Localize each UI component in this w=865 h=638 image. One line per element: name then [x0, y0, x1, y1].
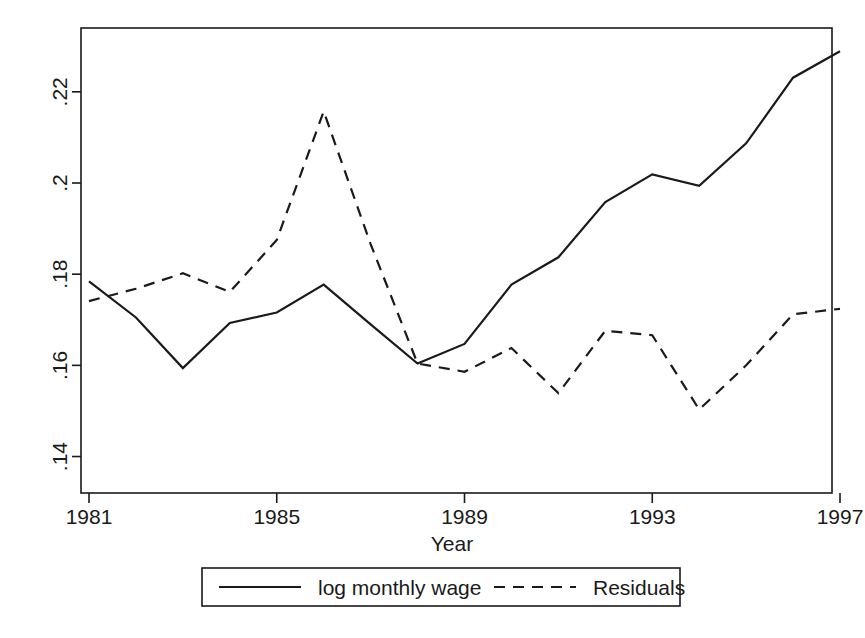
legend-label-log-monthly-wage: log monthly wage [318, 576, 481, 599]
line-chart: .14.16.18.2.22 19811985198919931997 Year… [0, 0, 865, 638]
y-tick-label: .18 [48, 260, 71, 289]
legend-label-residuals: Residuals [593, 576, 685, 599]
x-tick-label: 1993 [629, 505, 676, 528]
y-tick-label: .22 [48, 77, 71, 106]
x-tick-label: 1989 [441, 505, 488, 528]
y-tick-label: .14 [48, 442, 71, 472]
y-tick-label: .16 [48, 351, 71, 380]
chart-figure: .14.16.18.2.22 19811985198919931997 Year… [0, 0, 865, 638]
x-tick-label: 1981 [66, 505, 113, 528]
x-tick-label: 1985 [253, 505, 300, 528]
x-tick-label: 1997 [817, 505, 864, 528]
x-axis-title: Year [431, 532, 473, 555]
y-tick-label: .2 [48, 174, 71, 192]
